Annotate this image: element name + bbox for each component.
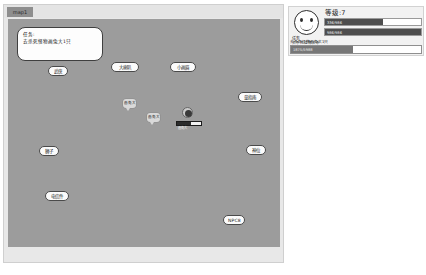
monster-name-label: 画兔大 [147, 113, 160, 122]
map-canvas[interactable]: 任务: 去杀死怪物画兔大1只 大喇叭 小画眉 武侠 童指南 狮子 神位 电信件 … [8, 19, 280, 247]
map-label[interactable]: 狮子 [39, 146, 59, 156]
tab-strip: map1 [4, 5, 283, 18]
map-label-text: 电信件 [51, 194, 64, 199]
monster-sprite[interactable]: 画兔大 [147, 113, 160, 122]
map-label-text: NPC8 [228, 218, 241, 223]
tab-map1[interactable]: map1 [7, 7, 33, 17]
map-label[interactable]: 大喇叭 [111, 62, 139, 72]
game-client-window: map1 任务: 去杀死怪物画兔大1只 大喇叭 小画眉 武侠 童指南 狮子 神位… [3, 4, 284, 263]
map-label[interactable]: NPC8 [223, 215, 245, 225]
avatar-eye-right-icon [310, 18, 313, 22]
hp-bar-value: 336/986 [327, 19, 342, 27]
map-label[interactable]: 童指南 [238, 92, 262, 102]
mp-bar-value: 986/986 [327, 29, 342, 37]
hp-bar: 336/986 [324, 18, 422, 26]
quest-dialog-line-2: 去杀死怪物画兔大1只 [23, 39, 97, 46]
map-label-text: 武侠 [54, 69, 62, 74]
quest-caption: 去杀死怪物画兔大1只 [290, 39, 328, 44]
map-label-text: 大喇叭 [119, 65, 132, 70]
mp-bar: 986/986 [324, 28, 422, 36]
map-label-text: 童指南 [244, 95, 257, 100]
avatar-mouth-icon [300, 23, 313, 31]
map-label[interactable]: 武侠 [48, 66, 68, 76]
character-hud-panel: 任务 去杀死怪物去杀 等级:7 336/986 986/986 去杀死怪物画兔大… [288, 6, 424, 56]
monster-name-label: 画兔大 [123, 99, 136, 108]
level-text: 等级:7 [325, 9, 345, 17]
map-label-text: 神位 [252, 148, 260, 153]
player-face-icon [185, 110, 192, 117]
player-health-bar-fill [191, 122, 201, 125]
quest-dialog[interactable]: 任务: 去杀死怪物画兔大1只 [17, 27, 103, 61]
map-label[interactable]: 小画眉 [170, 62, 196, 72]
map-label-text: 狮子 [45, 149, 53, 154]
experience-bar-value: 1875/5988 [293, 46, 313, 55]
map-label[interactable]: 神位 [246, 145, 266, 155]
avatar-eye-left-icon [300, 18, 303, 22]
player-sprite[interactable]: 画兔大 [176, 107, 204, 133]
experience-bar: 1875/5988 [290, 45, 422, 54]
player-name-label: 画兔大 [178, 126, 187, 131]
map-label[interactable]: 电信件 [45, 191, 69, 201]
player-portrait-icon [182, 107, 193, 118]
map-label-text: 小画眉 [177, 65, 190, 70]
monster-sprite[interactable]: 画兔大 [123, 99, 136, 108]
avatar-smiley-icon[interactable] [294, 10, 319, 35]
